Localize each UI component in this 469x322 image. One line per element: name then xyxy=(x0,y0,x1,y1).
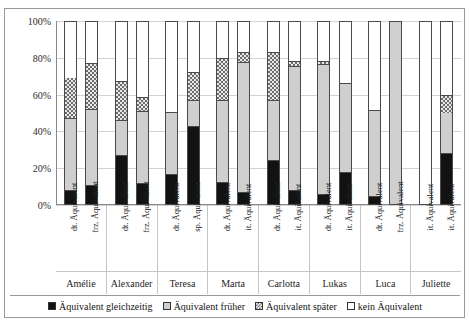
bar-segment-spaeter xyxy=(86,64,97,109)
bar-group xyxy=(410,21,461,205)
category-label: dt. Äquivalent xyxy=(273,183,282,232)
stacked-bar[interactable] xyxy=(187,21,200,205)
bar-segment-spaeter xyxy=(188,73,199,100)
bar-segment-frueher xyxy=(86,110,97,185)
category-label-cell: dt. Äquivalent xyxy=(64,205,77,271)
bar-group xyxy=(309,21,360,205)
group-name-label: Amélie xyxy=(56,272,107,294)
y-tick-label: 0% xyxy=(38,200,51,211)
bar-group xyxy=(360,21,411,205)
chart-frame: 0%20%40%60%80%100% dt. Äquivalentfrz. Äq… xyxy=(4,8,465,318)
group-name-label: Marta xyxy=(208,272,259,294)
stacked-bar[interactable] xyxy=(368,21,381,205)
legend-item[interactable]: kein Äquivalent xyxy=(347,301,422,312)
legend-swatch-spaeter xyxy=(255,302,263,310)
top-partial-text xyxy=(6,0,206,8)
stacked-bar[interactable] xyxy=(115,21,128,205)
category-label-group: dt. Äquivalentit. Äquivalent xyxy=(310,205,361,271)
x-group-labels: AmélieAlexanderTeresaMartaCarlottaLukasL… xyxy=(56,271,461,294)
bar-segment-kein xyxy=(420,22,431,204)
stacked-bar[interactable] xyxy=(85,21,98,205)
chart-screenshot: 0%20%40%60%80%100% dt. Äquivalentfrz. Äq… xyxy=(0,0,469,322)
category-label: dt. Äquivalent xyxy=(375,183,384,232)
bar-group xyxy=(208,21,259,205)
bar-segment-frueher xyxy=(318,65,329,194)
stacked-bar[interactable] xyxy=(389,21,402,205)
category-label-cell: dt. Äquivalent xyxy=(165,205,178,271)
category-label: it. Äquivalent xyxy=(426,184,435,231)
bar-segment-kein xyxy=(238,22,249,52)
x-category-labels: dt. Äquivalentfrz. Äquivalentdt. Äquival… xyxy=(56,205,461,271)
bar-segment-frueher xyxy=(441,113,452,152)
category-label-group: it. Äquivalentit. Äquivalent xyxy=(411,205,461,271)
legend-swatch-frueher xyxy=(163,302,171,310)
bar-segment-kein xyxy=(137,22,148,97)
group-name-label: Lukas xyxy=(310,272,361,294)
category-label-cell: dt. Äquivalent xyxy=(216,205,229,271)
legend-item[interactable]: Äquivalent früher xyxy=(163,301,245,312)
bar-group xyxy=(259,21,310,205)
category-label: it. Äquivalent xyxy=(244,184,253,231)
stacked-bar[interactable] xyxy=(339,21,352,205)
category-label-cell: it. Äquivalent xyxy=(237,205,250,271)
plot-area: 0%20%40%60%80%100% xyxy=(56,21,461,205)
bar-segment-spaeter xyxy=(441,96,452,112)
bar-segment-frueher xyxy=(188,101,199,126)
category-label-cell: dt. Äquivalent xyxy=(115,205,128,271)
stacked-bar[interactable] xyxy=(165,21,178,205)
category-label-group: dt. Äquivalentit. Äquivalent xyxy=(208,205,259,271)
bar-segment-kein xyxy=(340,22,351,83)
category-label-group: dt. Äquivalentfrz. Äquivalent xyxy=(361,205,412,271)
group-name-label: Alexander xyxy=(107,272,158,294)
stacked-bar[interactable] xyxy=(64,21,77,205)
legend-label: Äquivalent gleichzeitig xyxy=(59,301,153,312)
category-label-cell: sp. Äquivalent xyxy=(186,205,199,271)
y-tick-label: 20% xyxy=(33,163,51,174)
bar-segment-kein xyxy=(268,22,279,52)
bar-segment-kein xyxy=(369,22,380,110)
stacked-bar[interactable] xyxy=(136,21,149,205)
bar-group xyxy=(107,21,158,205)
category-label: frz. Äquivalent xyxy=(396,181,405,232)
bar-segment-kein xyxy=(65,22,76,78)
stacked-bar[interactable] xyxy=(317,21,330,205)
stacked-bar[interactable] xyxy=(440,21,453,205)
category-label-cell: it. Äquivalent xyxy=(440,205,453,271)
category-label-group: dt. Äquivalentsp. Äquivalent xyxy=(158,205,209,271)
category-label-cell: dt. Äquivalent xyxy=(267,205,280,271)
bar-segment-kein xyxy=(289,22,300,61)
stacked-bar[interactable] xyxy=(216,21,229,205)
bar-segment-kein xyxy=(441,22,452,95)
category-label-cell: dt. Äquivalent xyxy=(368,205,381,271)
stacked-bar[interactable] xyxy=(288,21,301,205)
bar-segment-spaeter xyxy=(238,53,249,62)
y-tick-label: 80% xyxy=(33,52,51,63)
stacked-bar[interactable] xyxy=(419,21,432,205)
category-label-cell: it. Äquivalent xyxy=(419,205,432,271)
legend-item[interactable]: Äquivalent gleichzeitig xyxy=(48,301,153,312)
y-tick-label: 40% xyxy=(33,126,51,137)
category-label: dt. Äquivalent xyxy=(223,183,232,232)
legend-swatch-kein xyxy=(347,302,355,310)
bar-segment-kein xyxy=(86,22,97,63)
chart-legend: Äquivalent gleichzeitigÄquivalent früher… xyxy=(10,295,460,316)
category-label-cell: frz. Äquivalent xyxy=(136,205,149,271)
group-name-label: Carlotta xyxy=(259,272,310,294)
bar-segment-frueher xyxy=(137,112,148,184)
bar-segment-frueher xyxy=(268,101,279,160)
bar-segment-kein xyxy=(116,22,127,81)
legend-swatch-gleichzeitig xyxy=(48,302,56,310)
category-label: dt. Äquivalent xyxy=(172,183,181,232)
group-name-label: Teresa xyxy=(158,272,209,294)
legend-item[interactable]: Äquivalent später xyxy=(255,301,337,312)
category-label: dt. Äquivalent xyxy=(121,183,130,232)
category-label: it. Äquivalent xyxy=(447,184,456,231)
stacked-bar[interactable] xyxy=(237,21,250,205)
stacked-bar[interactable] xyxy=(267,21,280,205)
category-label-cell: frz. Äquivalent xyxy=(85,205,98,271)
bar-segment-spaeter xyxy=(268,53,279,100)
category-label-group: dt. Äquivalentfrz. Äquivalent xyxy=(107,205,158,271)
bar-segment-kein xyxy=(166,22,177,112)
bar-segment-frueher xyxy=(116,121,127,155)
category-label: sp. Äquivalent xyxy=(193,182,202,232)
